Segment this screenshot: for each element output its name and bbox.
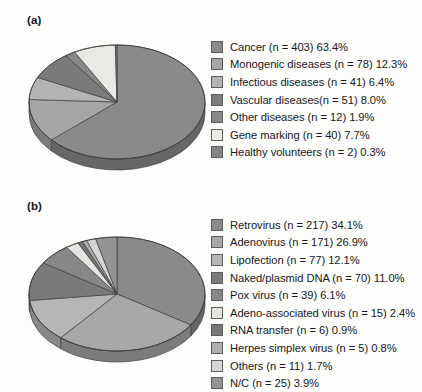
legend-a: Cancer (n = 403) 63.4%Monogenic diseases… xyxy=(211,38,407,161)
legend-label: Healthy volunteers (n = 2) 0.3% xyxy=(230,146,385,158)
legend-item: Retrovirus (n = 217) 34.1% xyxy=(211,216,415,234)
legend-label: Others (n = 11) 1.7% xyxy=(230,360,332,372)
pie-chart-b-svg xyxy=(22,220,212,378)
panel-b-label: (b) xyxy=(27,200,42,212)
legend-item: Pox virus (n = 39) 6.1% xyxy=(211,286,415,304)
legend-item: Vascular diseases(n = 51) 8.0% xyxy=(211,91,407,109)
pie-top-face xyxy=(29,45,205,159)
legend-color-swatch xyxy=(211,377,223,389)
legend-item: Other diseases (n = 12) 1.9% xyxy=(211,108,407,126)
legend-item: Herpes simplex virus (n = 5) 0.8% xyxy=(211,339,415,357)
legend-label: Adeno-associated virus (n = 15) 2.4% xyxy=(230,307,415,319)
legend-color-swatch xyxy=(211,342,223,354)
pie-chart-b xyxy=(22,220,212,378)
legend-color-swatch xyxy=(211,236,223,248)
legend-color-swatch xyxy=(211,76,223,88)
legend-label: Other diseases (n = 12) 1.9% xyxy=(230,111,374,123)
legend-label: N/C (n = 25) 3.9% xyxy=(230,377,319,389)
legend-color-swatch xyxy=(211,307,223,319)
legend-label: Monogenic diseases (n = 78) 12.3% xyxy=(230,58,407,70)
legend-item: RNA transfer (n = 6) 0.9% xyxy=(211,322,415,340)
legend-b: Retrovirus (n = 217) 34.1%Adenovirus (n … xyxy=(211,216,415,392)
legend-label: RNA transfer (n = 6) 0.9% xyxy=(230,324,357,336)
legend-color-swatch xyxy=(211,272,223,284)
legend-label: Naked/plasmid DNA (n = 70) 11.0% xyxy=(230,272,404,284)
legend-color-swatch xyxy=(211,146,223,158)
legend-color-swatch xyxy=(211,219,223,231)
legend-label: Herpes simplex virus (n = 5) 0.8% xyxy=(230,342,397,354)
legend-label: Vascular diseases(n = 51) 8.0% xyxy=(230,94,386,106)
panel-b: (b) Retrovirus (n = 217) 34.1%Adenovirus… xyxy=(0,192,422,383)
legend-item: Gene marking (n = 40) 7.7% xyxy=(211,126,407,144)
legend-label: Gene marking (n = 40) 7.7% xyxy=(230,129,370,141)
legend-color-swatch xyxy=(211,111,223,123)
legend-color-swatch xyxy=(211,41,223,53)
legend-color-swatch xyxy=(211,324,223,336)
legend-item: N/C (n = 25) 3.9% xyxy=(211,374,415,392)
panel-a-label: (a) xyxy=(27,14,41,26)
legend-item: Healthy volunteers (n = 2) 0.3% xyxy=(211,144,407,162)
legend-label: Adenovirus (n = 171) 26.9% xyxy=(230,236,368,248)
legend-item: Cancer (n = 403) 63.4% xyxy=(211,38,407,56)
legend-color-swatch xyxy=(211,254,223,266)
legend-item: Others (n = 11) 1.7% xyxy=(211,357,415,375)
legend-item: Lipofection (n = 77) 12.1% xyxy=(211,251,415,269)
legend-color-swatch xyxy=(211,94,223,106)
legend-item: Adeno-associated virus (n = 15) 2.4% xyxy=(211,304,415,322)
legend-color-swatch xyxy=(211,360,223,372)
legend-item: Adenovirus (n = 171) 26.9% xyxy=(211,234,415,252)
legend-label: Infectious diseases (n = 41) 6.4% xyxy=(230,76,394,88)
legend-item: Naked/plasmid DNA (n = 70) 11.0% xyxy=(211,269,415,287)
legend-label: Cancer (n = 403) 63.4% xyxy=(230,41,348,53)
legend-color-swatch xyxy=(211,289,223,301)
legend-color-swatch xyxy=(211,129,223,141)
pie-chart-a-svg xyxy=(22,30,212,185)
legend-label: Retrovirus (n = 217) 34.1% xyxy=(230,219,363,231)
legend-label: Lipofection (n = 77) 12.1% xyxy=(230,254,360,266)
legend-item: Monogenic diseases (n = 78) 12.3% xyxy=(211,56,407,74)
legend-label: Pox virus (n = 39) 6.1% xyxy=(230,289,345,301)
pie-chart-a xyxy=(22,30,212,185)
legend-item: Infectious diseases (n = 41) 6.4% xyxy=(211,73,407,91)
panel-a: (a) Cancer (n = 403) 63.4%Monogenic dise… xyxy=(0,0,422,192)
legend-color-swatch xyxy=(211,58,223,70)
pie-top-face xyxy=(29,237,205,351)
